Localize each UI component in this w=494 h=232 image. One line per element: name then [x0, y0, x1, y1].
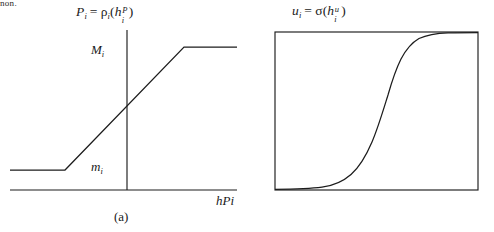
figure-root: non. Pi=ρi(hPi) Mi mi hPi (a) ui=σ(hui) …	[0, 0, 494, 232]
panel-b-sigmoid-curve	[275, 33, 478, 190]
plot-canvas	[0, 0, 494, 232]
panel-b-box-frame	[275, 32, 478, 190]
panel-a-data-curve	[10, 47, 237, 170]
